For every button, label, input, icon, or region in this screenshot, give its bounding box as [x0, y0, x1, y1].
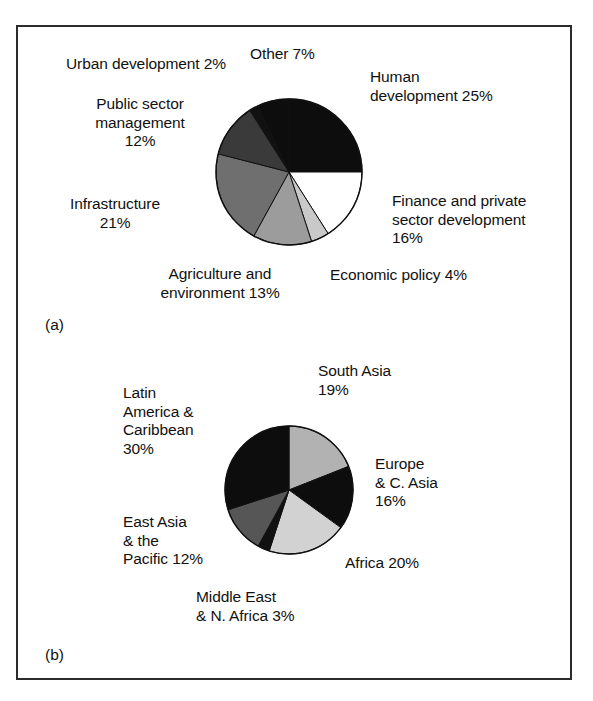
label-africa: Africa 20%	[345, 554, 475, 573]
pie-chart-a	[213, 96, 365, 248]
pie-slice	[289, 99, 362, 172]
label-infrastructure: Infrastructure 21%	[40, 195, 190, 232]
panel-tag-b: (b)	[45, 646, 64, 664]
pie-panel-a: Urban development 2%Other 7%Human develo…	[18, 27, 570, 345]
figure-frame: Urban development 2%Other 7%Human develo…	[16, 25, 572, 680]
label-economic-policy: Economic policy 4%	[330, 266, 510, 285]
label-agriculture-environment: Agriculture and environment 13%	[130, 265, 310, 302]
label-east-asia-pacific: East Asia & the Pacific 12%	[123, 513, 263, 569]
label-human-development: Human development 25%	[370, 68, 550, 105]
label-latin-america-caribbean: Latin America & Caribbean 30%	[123, 384, 253, 458]
panel-tag-a: (a)	[45, 316, 64, 334]
label-other: Other 7%	[250, 45, 360, 64]
label-finance-private-sector: Finance and private sector development 1…	[392, 192, 582, 248]
pie-panel-b: South Asia 19%Latin America & Caribbean …	[18, 345, 570, 680]
label-public-sector-management: Public sector management 12%	[60, 95, 220, 151]
label-middle-east-north-africa: Middle East & N. Africa 3%	[196, 588, 366, 625]
label-europe-central-asia: Europe & C. Asia 16%	[375, 455, 505, 511]
label-urban-development: Urban development 2%	[66, 55, 276, 74]
label-south-asia: South Asia 19%	[318, 362, 448, 399]
